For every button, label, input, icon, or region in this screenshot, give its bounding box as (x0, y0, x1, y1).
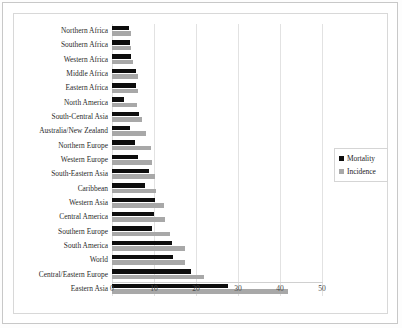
category-label: Northern Africa (61, 24, 108, 38)
bar-incidence (112, 189, 156, 194)
legend-item[interactable]: Mortality (339, 152, 384, 165)
category-label: Western Europe (61, 153, 108, 167)
x-tick-label: 30 (234, 284, 242, 293)
category-label: Northern Europe (58, 139, 108, 153)
bar-mortality (112, 169, 149, 174)
bar-row: South America (112, 239, 322, 253)
bar-row: South-Central Asia (112, 110, 322, 124)
bar-row: Northern Africa (112, 24, 322, 38)
bar-row: Eastern Asia (112, 282, 322, 296)
bar-incidence (112, 246, 185, 251)
bar-mortality (112, 241, 172, 246)
bar-row: Western Asia (112, 196, 322, 210)
x-tick-label: 0 (110, 284, 114, 293)
bar-row: Western Europe (112, 153, 322, 167)
legend-swatch-icon (339, 156, 344, 161)
chart-legend: MortalityIncidence (334, 148, 388, 182)
legend-label: Mortality (347, 154, 375, 163)
bar-incidence (112, 131, 146, 136)
category-label: South-Central Asia (52, 110, 108, 124)
bar-incidence (112, 146, 151, 151)
bar-mortality (112, 155, 138, 160)
bar-row: Southern Africa (112, 38, 322, 52)
bar-mortality (112, 26, 129, 31)
bar-row: Northern Europe (112, 139, 322, 153)
bar-mortality (112, 40, 130, 45)
bar-mortality (112, 284, 228, 289)
x-tick-label: 40 (276, 284, 284, 293)
category-label: Eastern Asia (71, 282, 108, 296)
bar-mortality (112, 54, 131, 59)
category-label: Australia/New Zealand (39, 124, 108, 138)
x-tick-label: 20 (192, 284, 200, 293)
bar-incidence (112, 174, 155, 179)
bar-mortality (112, 183, 145, 188)
chart-figure: Northern AfricaSouthern AfricaWestern Af… (0, 0, 402, 328)
category-label: Middle Africa (66, 67, 108, 81)
gridline-50 (322, 24, 323, 296)
bar-mortality (112, 69, 136, 74)
bar-row: Western Africa (112, 53, 322, 67)
bar-row: Central/Eastern Europe (112, 268, 322, 282)
category-label: Eastern Africa (66, 81, 108, 95)
bar-row: Central America (112, 210, 322, 224)
bar-mortality (112, 83, 136, 88)
category-label: Caribbean (78, 182, 108, 196)
bar-mortality (112, 269, 191, 274)
legend-label: Incidence (347, 167, 376, 176)
bar-incidence (112, 203, 164, 208)
bar-row: Southern Europe (112, 225, 322, 239)
bar-incidence (112, 103, 137, 108)
x-tick-label: 10 (150, 284, 158, 293)
bar-incidence (112, 60, 133, 65)
bar-row: North America (112, 96, 322, 110)
bar-mortality (112, 126, 130, 131)
category-label: Western Asia (69, 196, 108, 210)
bar-incidence (112, 217, 165, 222)
bar-mortality (112, 255, 173, 260)
bar-row: Middle Africa (112, 67, 322, 81)
bar-row: Australia/New Zealand (112, 124, 322, 138)
category-label: North America (64, 96, 108, 110)
category-label: South-Eastern Asia (51, 167, 108, 181)
category-label: Central America (59, 210, 108, 224)
bar-mortality (112, 226, 152, 231)
bar-mortality (112, 97, 124, 102)
legend-item[interactable]: Incidence (339, 165, 384, 178)
category-label: Western Africa (64, 53, 108, 67)
bar-mortality (112, 140, 135, 145)
category-label: Southern Europe (58, 225, 108, 239)
bars-container: Northern AfricaSouthern AfricaWestern Af… (112, 24, 322, 282)
bar-row: Eastern Africa (112, 81, 322, 95)
bar-incidence (112, 160, 152, 165)
category-label: Southern Africa (61, 38, 108, 52)
bar-mortality (112, 112, 139, 117)
bar-incidence (112, 31, 131, 36)
legend-swatch-icon (339, 169, 344, 174)
bar-mortality (112, 212, 154, 217)
category-label: Central/Eastern Europe (39, 268, 108, 282)
bar-mortality (112, 198, 155, 203)
bar-incidence (112, 275, 204, 280)
bar-row: South-Eastern Asia (112, 167, 322, 181)
bar-row: Caribbean (112, 182, 322, 196)
category-label: South America (64, 239, 108, 253)
bar-incidence (112, 260, 185, 265)
bar-row: World (112, 253, 322, 267)
bar-incidence (112, 74, 138, 79)
bar-incidence (112, 89, 138, 94)
bar-incidence (112, 117, 142, 122)
bar-incidence (112, 46, 131, 51)
bar-incidence (112, 232, 170, 237)
category-label: World (90, 253, 108, 267)
x-tick-label: 50 (318, 284, 326, 293)
